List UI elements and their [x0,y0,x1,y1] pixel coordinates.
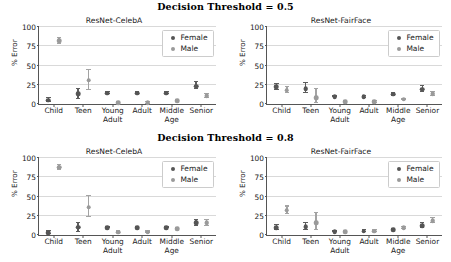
error-cap-lower [86,89,90,90]
error-cap-lower [76,231,80,232]
marker-female [76,225,81,230]
y-gridline [39,157,216,158]
subplot-title: ResNet-CelebA [8,147,220,156]
figure-root: Decision Threshold = 0.5 ResNet-CelebA %… [0,0,451,262]
marker-male [145,101,150,106]
x-tick-label: Young Adult [329,107,351,124]
marker-male [314,96,319,101]
legend-marker-female-icon [397,36,401,40]
y-tick-label: 75 [255,42,264,51]
y-gridline [267,215,442,216]
legend-marker-female-icon [171,36,175,40]
y-axis-label: % Error [238,170,247,197]
y-tick-mark [37,176,40,177]
y-tick-label: 0 [259,231,264,240]
y-gridline [267,196,442,197]
x-tick-label: Young Adult [102,238,124,255]
error-cap-lower [76,98,80,99]
x-tick-label: Teen [75,238,92,247]
subplot-celeba-t05: ResNet-CelebA % Error 0255075100ChildTee… [8,16,220,131]
y-tick-mark [265,103,268,104]
y-tick-label: 50 [255,192,264,201]
y-tick-label: 50 [27,61,36,70]
x-tick-label: Adult [133,238,152,247]
marker-male [430,218,435,223]
x-tick-label: Child [44,107,63,116]
marker-male [314,220,319,225]
y-tick-label: 100 [22,154,36,163]
error-cap-upper [303,222,307,223]
legend-marker-male-icon [171,47,175,51]
legend-marker-male-icon [397,178,401,182]
y-gridline [267,103,442,104]
legend-marker-male-icon [397,47,401,51]
x-tick-label: Young Adult [329,238,351,255]
y-tick-label: 100 [250,154,264,163]
marker-male [145,230,150,235]
y-tick-mark [265,26,268,27]
y-tick-mark [265,196,268,197]
marker-male [285,88,290,93]
y-gridline [39,84,216,85]
marker-female [391,92,396,97]
marker-male [175,227,180,232]
error-cap-upper [285,205,289,206]
legend-item-female: Female [392,33,434,44]
y-axis-label: % Error [10,170,19,197]
y-gridline [39,234,216,235]
y-tick-mark [37,157,40,158]
x-tick-label: Adult [133,107,152,116]
y-tick-mark [265,65,268,66]
y-tick-label: 25 [27,211,36,220]
legend-marker-female-icon [397,167,401,171]
error-cap-lower [285,213,289,214]
x-tick-label: Young Adult [102,107,124,124]
subplot-title: ResNet-FairFace [236,16,446,25]
legend-label-male: Male [406,175,424,186]
marker-male [116,101,121,106]
marker-male [116,230,121,235]
y-tick-label: 0 [31,100,36,109]
y-tick-mark [265,84,268,85]
x-tick-label: Senior [189,107,213,116]
y-tick-label: 75 [27,42,36,51]
legend-label-female: Female [406,164,433,175]
x-tick-label: Senior [416,238,440,247]
y-tick-label: 50 [27,192,36,201]
legend-item-female: Female [392,164,434,175]
marker-female [194,84,199,89]
legend-item-female: Female [166,164,208,175]
legend-marker-female-icon [171,167,175,171]
y-tick-mark [37,234,40,235]
error-cap-upper [86,195,90,196]
y-tick-label: 75 [255,173,264,182]
marker-male [372,229,377,234]
marker-male [204,220,209,225]
y-axis-label: % Error [238,39,247,66]
marker-female [391,228,396,233]
marker-male [175,98,180,103]
y-gridline [39,215,216,216]
legend-label-female: Female [406,33,433,44]
error-cap-upper [76,88,80,89]
panel-threshold-0-5: Decision Threshold = 0.5 ResNet-CelebA %… [0,0,451,131]
x-tick-label: Middle Age [386,238,410,255]
panel-suptitle: Decision Threshold = 0.8 [0,132,451,143]
error-cap-upper [194,81,198,82]
legend-label-male: Male [180,44,198,55]
x-tick-label: Senior [189,238,213,247]
y-gridline [39,196,216,197]
error-cap-upper [303,82,307,83]
subplot-fairface-t08: ResNet-FairFace % Error 0255075100ChildT… [236,147,446,262]
marker-male [343,229,348,234]
marker-male [430,92,435,97]
error-cap-upper [314,88,318,89]
marker-female [420,223,425,228]
marker-female [362,229,367,234]
x-tick-label: Teen [302,107,319,116]
error-cap-lower [314,102,318,103]
marker-female [362,95,367,100]
y-tick-mark [265,157,268,158]
error-cap-lower [86,216,90,217]
marker-male [343,100,348,105]
